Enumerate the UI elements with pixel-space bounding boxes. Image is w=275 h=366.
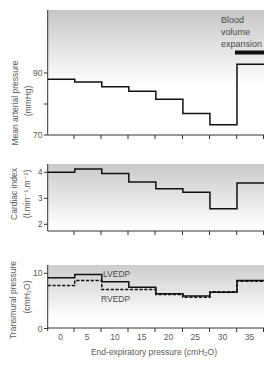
y-tick-label: 0 bbox=[38, 324, 43, 334]
x-axis-ticks bbox=[74, 231, 264, 235]
y-tick-label: 4 bbox=[38, 167, 43, 177]
panel-cardiac-index: 4 3 2 Cardiac index (l.min⁻¹.m⁻²) bbox=[9, 164, 264, 235]
panel-shade bbox=[48, 164, 264, 231]
y-axis-title: Mean arterial pressure bbox=[10, 60, 20, 145]
chart-svg: 90 70 Mean arterial pressure (mmHg) Bloo… bbox=[0, 0, 275, 366]
y-axis-unit: (mmHg) bbox=[23, 85, 33, 116]
annotation-line: Blood bbox=[221, 15, 244, 25]
y-tick-label: 2 bbox=[38, 219, 43, 229]
y-axis-ticks bbox=[44, 73, 48, 135]
x-tick-labels: 0 5 10 15 20 25 30 35 bbox=[58, 332, 254, 342]
y-tick-label: 10 bbox=[33, 268, 43, 278]
y-tick-label: 70 bbox=[33, 130, 43, 140]
x-tick-label: 35 bbox=[245, 332, 255, 342]
y-axis-ticks bbox=[44, 172, 48, 224]
y-axis-title: Cardiac index bbox=[9, 167, 19, 220]
panel-mean-arterial-pressure: 90 70 Mean arterial pressure (mmHg) Bloo… bbox=[10, 10, 264, 146]
y-axis-unit: (cmH₂O) bbox=[22, 280, 32, 313]
x-tick-label: 10 bbox=[110, 332, 120, 342]
y-axis-title: Transmural pressure bbox=[8, 261, 18, 339]
figure: 90 70 Mean arterial pressure (mmHg) Bloo… bbox=[0, 0, 275, 366]
x-axis-title: End-expiratory pressure (cmH₂O) bbox=[91, 347, 217, 357]
rvedp-label: RVEDP bbox=[101, 294, 130, 304]
y-axis-ticks bbox=[44, 273, 48, 328]
x-tick-label: 5 bbox=[85, 332, 90, 342]
y-tick-label: 90 bbox=[33, 68, 43, 78]
annotation-line: volume bbox=[221, 27, 250, 37]
panel-transmural-pressure: 10 0 Transmural pressure (cmH₂O) LVEDP R… bbox=[8, 261, 264, 357]
lvedp-label: LVEDP bbox=[103, 269, 131, 279]
x-tick-label: 0 bbox=[58, 332, 63, 342]
y-axis-unit: (l.min⁻¹.m⁻²) bbox=[22, 169, 32, 218]
annotation-bar bbox=[235, 51, 264, 55]
annotation-line: expansion bbox=[221, 39, 262, 49]
x-axis-ticks bbox=[74, 135, 264, 139]
x-tick-label: 25 bbox=[190, 332, 200, 342]
x-tick-label: 30 bbox=[218, 332, 228, 342]
x-tick-label: 20 bbox=[164, 332, 174, 342]
y-tick-label: 3 bbox=[38, 193, 43, 203]
x-tick-label: 15 bbox=[137, 332, 147, 342]
